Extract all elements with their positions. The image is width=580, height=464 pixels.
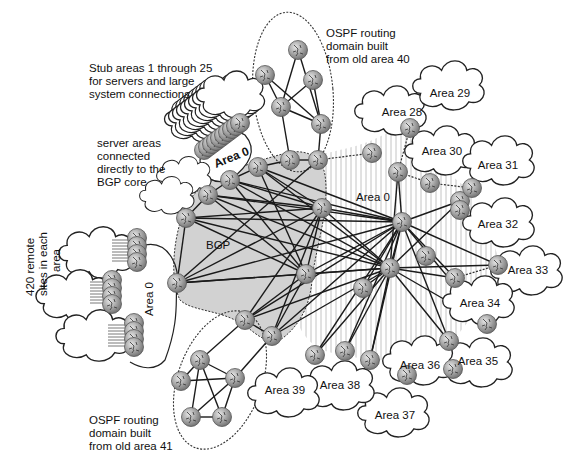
router-icon — [312, 115, 331, 134]
router-icon — [199, 186, 218, 205]
router-icon — [177, 209, 196, 228]
router-icon — [168, 274, 187, 293]
router-icon — [401, 119, 420, 138]
router-icon — [381, 259, 400, 278]
router-icon — [446, 269, 465, 288]
router-icon — [272, 98, 291, 117]
area-label: Area 36 — [400, 359, 440, 371]
router-icon — [263, 327, 282, 346]
router-icon — [226, 369, 245, 388]
router-icon — [306, 346, 325, 365]
svg-text:system connections: system connections — [89, 88, 190, 100]
svg-text:OSPF routing: OSPF routing — [89, 414, 159, 426]
ospf-domain-41-note: OSPF routing domain built from old area … — [89, 414, 173, 452]
router-icon — [304, 71, 323, 90]
area-cloud — [413, 61, 484, 110]
area-label: Area 39 — [265, 384, 305, 396]
router-icon — [172, 372, 191, 391]
router-icon — [182, 408, 201, 427]
router-icon — [336, 342, 355, 361]
svg-text:sites in each: sites in each — [37, 232, 49, 296]
router-icon — [289, 41, 308, 60]
area-label: Area 33 — [508, 264, 548, 276]
router-icon — [393, 213, 412, 232]
router-icon — [417, 247, 436, 266]
router-icon — [213, 408, 232, 427]
svg-text:OSPF routing: OSPF routing — [326, 27, 396, 39]
svg-text:from old area 41: from old area 41 — [89, 440, 173, 452]
router-icon — [389, 163, 408, 182]
router-icon — [440, 332, 459, 351]
router-icon — [463, 179, 482, 198]
router-icon — [249, 158, 268, 177]
area0-left-label: Area 0 — [143, 282, 155, 316]
router-icon — [281, 151, 300, 170]
area-label: Area 38 — [320, 379, 360, 391]
area-label: Area 35 — [458, 355, 498, 367]
router-icon — [309, 151, 328, 170]
router-icon — [451, 201, 470, 220]
ospf-domain-40-note: OSPF routing domain built from old area … — [326, 27, 410, 65]
svg-text:for servers and large: for servers and large — [89, 75, 194, 87]
router-icon — [256, 66, 275, 85]
area-label: Area 32 — [478, 218, 518, 230]
svg-text:area: area — [50, 248, 62, 272]
router-icon — [297, 265, 316, 284]
router-icon — [478, 315, 497, 334]
svg-text:directly to the: directly to the — [97, 163, 165, 175]
router-icon — [363, 144, 382, 163]
svg-text:domain built: domain built — [326, 40, 389, 52]
area0-right-label: Area 0 — [356, 191, 390, 203]
router-icon — [354, 279, 373, 298]
svg-text:Stub areas 1 through 25: Stub areas 1 through 25 — [89, 62, 212, 74]
area-label: Area 37 — [375, 409, 415, 421]
bgp-label: BGP — [206, 239, 231, 251]
router-icon — [421, 174, 440, 193]
svg-text:connected: connected — [97, 150, 150, 162]
svg-text:server areas: server areas — [97, 137, 161, 149]
svg-text:BGP core: BGP core — [97, 176, 147, 188]
svg-text:420 remote: 420 remote — [24, 238, 36, 296]
area-label: Area 29 — [430, 87, 470, 99]
area-label: Area 31 — [478, 159, 518, 171]
router-icon — [489, 256, 508, 275]
router-icon — [313, 199, 332, 218]
router-icon — [236, 311, 255, 330]
svg-text:from old area 40: from old area 40 — [326, 53, 410, 65]
area-label: Area 30 — [422, 145, 462, 157]
router-icon — [361, 351, 380, 370]
router-icon — [191, 351, 210, 370]
router-icon — [221, 171, 240, 190]
svg-text:domain built: domain built — [89, 427, 152, 439]
area-label: Area 34 — [460, 297, 501, 309]
area-label: Area 28 — [382, 106, 422, 118]
network-diagram: BGP Area 0 Area 0 Area 0 Stub areas 1 th… — [0, 0, 580, 464]
